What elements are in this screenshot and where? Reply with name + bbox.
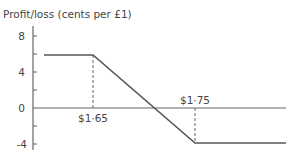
x-annotation-175: $1·75 <box>180 94 210 106</box>
x-annotation-165: $1·65 <box>78 112 108 124</box>
y-tick-minus-4: -4 <box>17 138 28 150</box>
y-tick-4: 4 <box>18 66 25 78</box>
payoff-line <box>44 55 286 143</box>
profit-loss-chart: Profit/loss (cents per £1) 8 4 0 -4 $1·6… <box>0 0 296 158</box>
y-axis-label: Profit/loss (cents per £1) <box>3 8 132 20</box>
y-tick-8: 8 <box>18 30 25 42</box>
y-tick-0: 0 <box>18 102 25 114</box>
